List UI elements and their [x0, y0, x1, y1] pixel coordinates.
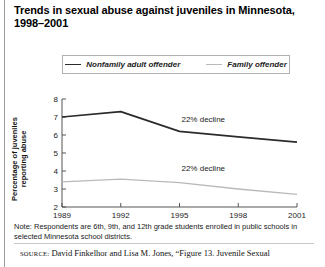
y-tick-label: 4	[54, 167, 59, 176]
x-tick-label: 1995	[171, 211, 189, 218]
legend-label-family: Family offender	[227, 60, 286, 69]
legend-label-nonfamily: Nonfamily adult offender	[86, 60, 180, 69]
annotation-label: 22% decline	[181, 164, 225, 173]
y-tick-label: 5	[54, 149, 59, 158]
annotation-label: 22% decline	[181, 115, 225, 124]
series-line-nonfamily-adult-offender	[62, 112, 297, 143]
chart-plot-area: 2345678 19891992199519982001 22% decline…	[0, 88, 325, 218]
line-chart: Percentage of juveniles reporting abuse …	[0, 88, 325, 218]
legend-item-nonfamily-adult-offender: Nonfamily adult offender	[65, 60, 180, 69]
y-tick-label: 7	[54, 113, 59, 122]
figure-note: Note: Respondents are 6th, 9th, and 12th…	[14, 222, 312, 242]
y-tick-label: 3	[54, 185, 59, 194]
legend-items: Nonfamily adult offender Family offender	[63, 56, 289, 73]
page-title: Trends in sexual abuse against juveniles…	[14, 4, 314, 30]
legend-line-icon-nonfamily	[65, 64, 81, 65]
y-tick-label: 8	[54, 95, 59, 104]
x-axis: 19891992199519982001	[53, 203, 306, 218]
legend-line-icon-family	[206, 64, 222, 65]
figure-page: Trends in sexual abuse against juveniles…	[0, 0, 325, 267]
source-kicker: SOURCE:	[20, 250, 49, 257]
note-source-divider	[14, 243, 314, 244]
legend-item-family-offender: Family offender	[206, 60, 286, 69]
chart-annotations: 22% decline22% decline	[181, 115, 225, 173]
x-tick-label: 1998	[229, 211, 247, 218]
series-line-family-offender	[62, 179, 297, 194]
x-tick-label: 1989	[53, 211, 71, 218]
data-series-group	[62, 112, 297, 195]
y-tick-label: 6	[54, 131, 59, 140]
y-axis: 2345678	[54, 95, 66, 212]
chart-legend: Nonfamily adult offender Family offender	[62, 55, 290, 74]
figure-source: SOURCE: David Finkelhor and Lisa M. Jone…	[20, 248, 316, 259]
x-tick-label: 2001	[288, 211, 306, 218]
x-tick-label: 1992	[112, 211, 130, 218]
source-text: David Finkelhor and Lisa M. Jones, “Figu…	[49, 248, 270, 258]
